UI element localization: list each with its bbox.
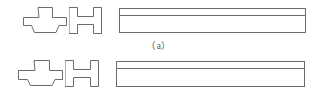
cross-profile-outline (19, 61, 63, 86)
figure-root: （a） （b） (0, 0, 322, 111)
h-beam-profile-b (65, 60, 101, 89)
h-beam-profile-a (69, 7, 103, 35)
long-bar-elevation-a (119, 8, 307, 34)
long-bar-elevation-b-svg (116, 61, 306, 88)
cross-profile-outline (24, 8, 67, 33)
cross-shaped-profile-a (23, 7, 67, 35)
cross-shaped-profile-b (18, 60, 64, 88)
bar-outline-b (117, 62, 305, 87)
h-beam-outline (66, 61, 99, 87)
figure-row-b: （b） (0, 55, 322, 111)
h-beam-profile-a-svg (69, 7, 103, 35)
cross-shaped-profile-b-svg (18, 60, 64, 88)
cross-shaped-profile-a-svg (23, 7, 67, 35)
bar-outline-a (120, 9, 306, 33)
figure-row-a: （a） (0, 0, 322, 56)
long-bar-elevation-a-svg (119, 8, 307, 34)
h-beam-outline (70, 8, 102, 34)
h-beam-profile-b-svg (65, 60, 101, 89)
caption-a: （a） (0, 38, 320, 52)
long-bar-elevation-b (116, 61, 306, 88)
